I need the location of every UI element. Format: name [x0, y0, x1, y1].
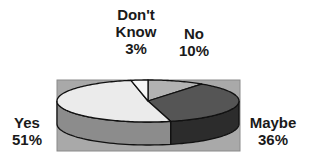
label-dont-know-line1: Don't	[108, 6, 164, 23]
label-no-pct: 10%	[172, 42, 216, 59]
pie-slices	[57, 80, 239, 122]
label-dont-know: Don't Know 3%	[108, 6, 164, 57]
label-yes: Yes 51%	[2, 114, 52, 148]
label-maybe-name: Maybe	[242, 114, 304, 131]
label-no: No 10%	[172, 25, 216, 59]
label-yes-name: Yes	[2, 114, 52, 131]
label-maybe-pct: 36%	[242, 131, 304, 148]
label-yes-pct: 51%	[2, 131, 52, 148]
label-no-name: No	[172, 25, 216, 42]
label-dont-know-line2: Know	[108, 23, 164, 40]
label-dont-know-pct: 3%	[108, 40, 164, 57]
label-maybe: Maybe 36%	[242, 114, 304, 148]
